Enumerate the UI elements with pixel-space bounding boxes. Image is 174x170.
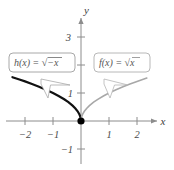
curves-group bbox=[12, 77, 146, 121]
y-axis-label: y bbox=[83, 4, 89, 16]
math-figure: −2 −1 1 2 x 3 1 −1 y bbox=[0, 0, 174, 170]
callout-h-label: h(x)=√−x bbox=[14, 57, 59, 69]
y-tick-label-neg1: −1 bbox=[61, 144, 73, 155]
callout-f-tail bbox=[104, 79, 128, 98]
x-tick-label-neg2: −2 bbox=[19, 129, 32, 140]
callout-f-label: f(x)=√x bbox=[99, 57, 135, 69]
callout-h: h(x)=√−x bbox=[9, 53, 75, 98]
y-tick-label-1: 1 bbox=[68, 88, 73, 99]
x-tick-label-2: 2 bbox=[134, 129, 140, 140]
x-tick-label-1: 1 bbox=[106, 129, 111, 140]
callout-f: f(x)=√x bbox=[94, 53, 150, 98]
function-graph: −2 −1 1 2 x 3 1 −1 y bbox=[0, 0, 174, 170]
y-tick-label-3: 3 bbox=[65, 32, 71, 43]
origin-point-dot bbox=[77, 117, 84, 124]
x-axis-group: −2 −1 1 2 x bbox=[6, 115, 166, 140]
x-axis-label: x bbox=[160, 115, 166, 127]
x-axis-arrow-icon bbox=[151, 118, 157, 123]
x-tick-label-neg1: −1 bbox=[47, 129, 59, 140]
y-axis-arrow-icon bbox=[78, 18, 83, 24]
